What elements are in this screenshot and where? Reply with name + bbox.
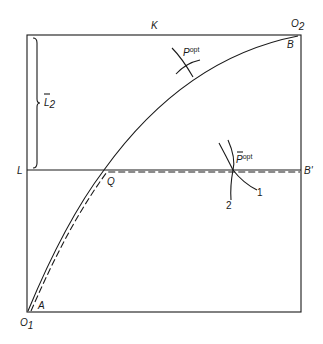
- brace-L2: [33, 38, 40, 168]
- label-curve-1: 1: [257, 187, 263, 198]
- label-P-opt: Popt: [183, 46, 199, 58]
- label-L2: L2: [44, 97, 56, 110]
- contract-curve: [28, 36, 298, 311]
- label-A: A: [37, 300, 45, 311]
- label-B-prime: B': [304, 165, 314, 176]
- indifference-curve-popt-b: [176, 60, 200, 74]
- label-L: L: [17, 165, 23, 176]
- label-B: B: [287, 39, 294, 50]
- label-O1: O1: [20, 317, 33, 331]
- indifference-curve-1: [219, 143, 257, 190]
- label-O2: O2: [291, 18, 305, 32]
- label-K: K: [151, 20, 159, 31]
- label-Q: Q: [107, 176, 115, 187]
- label-curve-2: 2: [226, 200, 232, 211]
- box-frame: [27, 35, 301, 312]
- edgeworth-box-diagram: K O2 B L B' Q A O1 L2 Popt Popt 1 2: [0, 0, 323, 344]
- label-P-bar-opt: Popt: [236, 153, 252, 165]
